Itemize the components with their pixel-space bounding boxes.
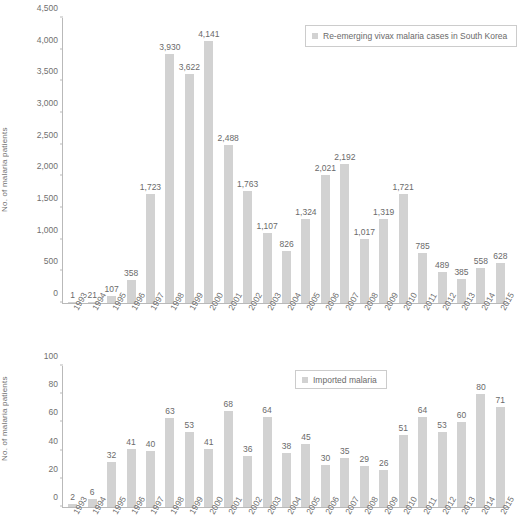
bar-value-label: 29 bbox=[360, 454, 369, 464]
bar-value-label: 2,488 bbox=[218, 133, 239, 143]
bar-value-label: 1,721 bbox=[393, 182, 414, 192]
bar: 1,721 bbox=[399, 194, 408, 303]
bar-value-label: 3,930 bbox=[159, 42, 180, 52]
bar-value-label: 489 bbox=[435, 260, 449, 270]
bar: 63 bbox=[165, 418, 174, 507]
bar-slot: 2,488 bbox=[219, 18, 238, 303]
bar-value-label: 3,622 bbox=[179, 62, 200, 72]
y-tick-label: 500 bbox=[44, 256, 58, 266]
bar-value-label: 51 bbox=[398, 423, 407, 433]
bar-slot: 41 bbox=[199, 366, 218, 507]
y-tick-label: 100 bbox=[44, 351, 58, 361]
y-tick-label: 60 bbox=[49, 407, 58, 417]
x-tick-slot: 1997 bbox=[141, 303, 160, 337]
bar: 1,723 bbox=[146, 194, 155, 303]
bar: 40 bbox=[146, 451, 155, 507]
bar-slot: 80 bbox=[471, 366, 490, 507]
bar-value-label: 826 bbox=[279, 239, 293, 249]
legend-label-bottom: Imported malaria bbox=[313, 375, 377, 385]
bar-value-label: 1,723 bbox=[140, 182, 161, 192]
x-tick-slot: 2007 bbox=[335, 303, 354, 337]
bar-slot: 2,021 bbox=[316, 18, 335, 303]
legend-label-top: Re-emerging vivax malaria cases in South… bbox=[323, 31, 507, 41]
bar-value-label: 40 bbox=[146, 439, 155, 449]
x-tick-slot: 2010 bbox=[393, 303, 412, 337]
x-tick-slot: 1995 bbox=[102, 507, 121, 519]
bar-slot: 1 bbox=[63, 18, 82, 303]
bar-value-label: 32 bbox=[107, 450, 116, 460]
bar-slot: 1,324 bbox=[296, 18, 315, 303]
legend-top: Re-emerging vivax malaria cases in South… bbox=[305, 25, 517, 47]
x-tick-slot: 2009 bbox=[374, 303, 393, 337]
x-tick-slot: 2015 bbox=[491, 303, 510, 337]
x-tick-slot: 1998 bbox=[160, 507, 179, 519]
bar-value-label: 1,763 bbox=[237, 179, 258, 189]
bar-slot: 826 bbox=[277, 18, 296, 303]
x-tick-slot: 1993 bbox=[63, 507, 82, 519]
bar-slot: 489 bbox=[432, 18, 451, 303]
y-tick-label: 1,000 bbox=[37, 225, 58, 235]
bar-slot: 60 bbox=[452, 366, 471, 507]
x-tick-slot: 2011 bbox=[413, 303, 432, 337]
bar-value-label: 63 bbox=[165, 406, 174, 416]
bar-value-label: 41 bbox=[204, 437, 213, 447]
x-tick-slot: 2013 bbox=[452, 303, 471, 337]
bar-value-label: 64 bbox=[262, 405, 271, 415]
x-tick-slot: 2006 bbox=[316, 507, 335, 519]
x-tick-slot: 2006 bbox=[316, 303, 335, 337]
bar-slot: 36 bbox=[238, 366, 257, 507]
x-tick-slot: 2001 bbox=[219, 507, 238, 519]
legend-swatch-icon bbox=[312, 33, 318, 39]
bar-value-label: 1,324 bbox=[295, 207, 316, 217]
x-tick-slot: 2011 bbox=[413, 507, 432, 519]
bar: 3,930 bbox=[165, 54, 174, 303]
bar: 51 bbox=[399, 435, 408, 507]
bar-slot: 51 bbox=[393, 366, 412, 507]
bar: 71 bbox=[496, 407, 505, 507]
x-tick-slot: 2014 bbox=[471, 303, 490, 337]
chart-bottom-imported-malaria: No. of malaria patients 020406080100 263… bbox=[0, 352, 520, 502]
x-tick-slot: 1999 bbox=[180, 303, 199, 337]
x-tick-slot: 1993 bbox=[63, 303, 82, 337]
y-axis-title-top: No. of malaria patients bbox=[0, 95, 9, 245]
bar-slot: 53 bbox=[432, 366, 451, 507]
bar-slot: 3,622 bbox=[180, 18, 199, 303]
bar-slot: 6 bbox=[82, 366, 101, 507]
bar: 2,192 bbox=[340, 164, 349, 303]
bar-value-label: 785 bbox=[416, 241, 430, 251]
x-tick-slot: 1998 bbox=[160, 303, 179, 337]
bar: 1,763 bbox=[243, 191, 252, 303]
x-tick-slot: 2012 bbox=[432, 303, 451, 337]
x-tick-labels-bottom: 1993199419951996199719981999200020012002… bbox=[63, 507, 510, 519]
bar: 36 bbox=[243, 456, 252, 507]
bar-slot: 1,723 bbox=[141, 18, 160, 303]
bar-value-label: 358 bbox=[124, 268, 138, 278]
bar-slot: 1,319 bbox=[374, 18, 393, 303]
x-tick-labels-top: 1993199419951996199719981999200020012002… bbox=[63, 303, 510, 337]
bar-value-label: 35 bbox=[340, 446, 349, 456]
y-tick-label: 2,000 bbox=[37, 161, 58, 171]
bar: 45 bbox=[301, 444, 310, 507]
legend-bottom: Imported malaria bbox=[295, 370, 387, 389]
x-tick-slot: 2012 bbox=[432, 507, 451, 519]
bar: 41 bbox=[127, 449, 136, 507]
bar: 41 bbox=[204, 449, 213, 507]
bar-value-label: 1,017 bbox=[354, 227, 375, 237]
x-tick-slot: 1996 bbox=[121, 303, 140, 337]
bar-slot: 53 bbox=[180, 366, 199, 507]
x-tick-slot: 2010 bbox=[393, 507, 412, 519]
bar-value-label: 107 bbox=[105, 284, 119, 294]
bar-value-label: 30 bbox=[321, 453, 330, 463]
bar-value-label: 6 bbox=[90, 487, 95, 497]
bar-slot: 63 bbox=[160, 366, 179, 507]
plot-area-bottom: 020406080100 263241406353416836643845303… bbox=[62, 366, 510, 508]
bar: 1,324 bbox=[301, 219, 310, 303]
bar-slot: 41 bbox=[121, 366, 140, 507]
x-tick-slot: 2003 bbox=[257, 507, 276, 519]
x-tick-slot: 2001 bbox=[219, 303, 238, 337]
bar-slot: 21 bbox=[82, 18, 101, 303]
bar-value-label: 2 bbox=[70, 492, 75, 502]
bar-value-label: 1,107 bbox=[256, 221, 277, 231]
y-tick-label: 3,000 bbox=[37, 98, 58, 108]
x-tick-slot: 2013 bbox=[452, 507, 471, 519]
